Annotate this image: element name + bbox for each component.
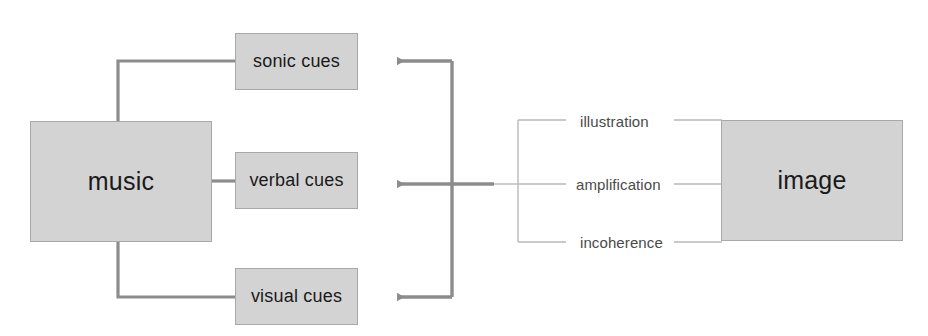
connector-relations-bracket-left	[494, 120, 566, 242]
connector-spine-to-cues	[397, 61, 494, 297]
connector-music-to-visual-cues	[118, 242, 235, 297]
node-visual-cues-label: visual cues	[251, 286, 342, 307]
relation-label-illustration: illustration	[580, 113, 649, 130]
node-sonic-cues-label: sonic cues	[253, 51, 340, 72]
connector-relations-to-image	[674, 120, 722, 242]
relation-label-incoherence: incoherence	[580, 234, 663, 251]
node-verbal-cues[interactable]: verbal cues	[235, 152, 358, 209]
node-sonic-cues[interactable]: sonic cues	[235, 33, 358, 90]
diagram-canvas: music sonic cues verbal cues visual cues…	[0, 0, 928, 336]
node-image[interactable]: image	[721, 120, 903, 241]
relation-label-amplification: amplification	[576, 176, 661, 193]
node-music[interactable]: music	[30, 121, 212, 242]
node-image-label: image	[777, 166, 846, 195]
node-verbal-cues-label: verbal cues	[249, 170, 343, 191]
node-visual-cues[interactable]: visual cues	[235, 268, 358, 325]
node-music-label: music	[88, 167, 154, 196]
connector-music-to-sonic-cues	[118, 61, 235, 121]
